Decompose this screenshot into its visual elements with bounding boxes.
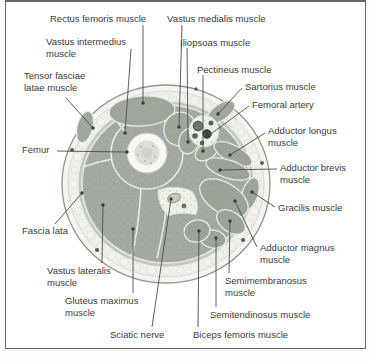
fat-lobule — [204, 258, 212, 266]
fat-lobule — [71, 167, 78, 174]
gluteus-maximus-label: Gluteus maximus muscle — [65, 295, 147, 318]
fat-lobule — [177, 267, 184, 274]
rectus-femoris-leader-dot — [141, 101, 144, 104]
biceps-femoris-leader-dot — [197, 229, 200, 232]
muscle-texture — [82, 105, 250, 263]
fat-lobule — [190, 96, 199, 105]
femoral-artery-leader-dot — [206, 134, 209, 137]
fat-lobule — [74, 207, 81, 214]
rectus-femoris-label: Rectus femoris muscle — [50, 13, 146, 25]
vastus-lateralis-label: Vastus lateralis muscle — [47, 265, 123, 288]
fat-lobule — [237, 129, 244, 136]
fat-lobule — [162, 267, 170, 275]
pectineus-leader-dot — [201, 149, 204, 152]
vastus-intermedius-leader-dot — [123, 131, 126, 134]
gracilis-label: Gracilis muscle — [278, 202, 342, 214]
semimembranosus-leader-dot — [228, 219, 231, 222]
fat-lobule — [107, 250, 116, 259]
femur-bone — [127, 133, 167, 173]
femur-marrow — [142, 148, 153, 159]
fat-lobule — [74, 153, 82, 161]
gracilis-leader-dot — [250, 190, 253, 193]
gluteus-maximus-leader-dot — [131, 227, 134, 230]
adductor-brevis-leader-dot — [218, 168, 221, 171]
vastus-medialis-leader-dot — [177, 125, 180, 128]
biceps-femoris-label: Biceps femoris muscle — [193, 329, 288, 341]
fat-lobule — [190, 263, 199, 272]
iliopsoas-label: Iliopsoas muscle — [180, 37, 250, 49]
tensor-fasciae-latae-leader-dot — [91, 126, 94, 129]
fat-lobule — [227, 241, 236, 250]
fat-lobule — [79, 219, 88, 228]
vastus-lateralis-leader-dot — [101, 203, 104, 206]
pectineus-label: Pectineus muscle — [197, 64, 271, 76]
semimembranosus-label: Semimembranosus muscle — [225, 275, 311, 298]
adductor-longus-leader-dot — [228, 153, 231, 156]
femur-leader-dot — [125, 150, 128, 153]
sciatic-nerve-label: Sciatic nerve — [110, 329, 164, 341]
fat-lobule — [204, 102, 211, 109]
fat-lobule — [147, 266, 156, 275]
sartorius-label: Sartorius muscle — [245, 81, 316, 93]
femur-label: Femur — [22, 144, 49, 156]
fascia-lata-label: Fascia lata — [22, 225, 68, 237]
adductor-magnus-label: Adductor magnus muscle — [260, 242, 344, 265]
femoral-artery-label: Femoral artery — [252, 99, 314, 111]
fat-lobule — [97, 118, 105, 126]
fat-lobule — [217, 251, 224, 258]
sciatic-nerve-leader-dot — [169, 197, 172, 200]
fascia-lata-leader-dot — [80, 191, 83, 194]
fat-lobule — [254, 167, 261, 174]
fat-lobule — [134, 264, 141, 271]
sartorius-leader-dot — [216, 112, 219, 115]
semitendinosus-label: Semitendinosus muscle — [210, 309, 310, 321]
adductor-magnus-leader-dot — [233, 199, 236, 202]
vastus-intermedius-label: Vastus intermedius muscle — [46, 36, 136, 59]
vastus-medialis-label: Vastus medialis muscle — [167, 13, 266, 25]
adductor-longus-label: Adductor longus muscle — [268, 125, 348, 148]
semitendinosus-leader-dot — [214, 236, 217, 239]
fat-lobule — [176, 94, 184, 102]
anatomy-figure: Rectus femoris muscleVastus medialis mus… — [0, 0, 370, 363]
fat-lobule — [87, 231, 95, 239]
adductor-brevis-label: Adductor brevis muscle — [280, 162, 360, 185]
fat-lobule — [69, 179, 78, 188]
tensor-fasciae-latae-label: Tensor fasciae latae muscle — [24, 70, 92, 93]
iliopsoas-leader-dot — [186, 140, 189, 143]
